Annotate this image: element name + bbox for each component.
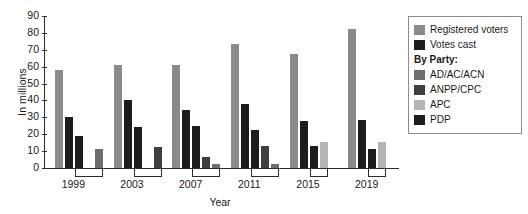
x-tick-label-2015: 2015 [279,178,338,190]
y-tick-mark [42,168,47,169]
legend-item[interactable]: PDP [414,112,517,127]
legend-label: ANPP/CPC [430,84,481,95]
legend-label: Votes cast [430,39,476,50]
legend-swatch-icon [414,40,425,50]
y-tick-label: 20 [17,127,39,139]
legend-label: PDP [430,114,451,125]
legend-item[interactable]: ANPP/CPC [414,82,517,97]
bar [172,65,180,168]
bar [271,164,279,168]
party-bracket [192,169,220,177]
bar [134,127,142,168]
bar [358,120,366,168]
bars-layer [45,16,397,168]
party-bracket [75,169,103,177]
x-tick-label-1999: 1999 [44,178,103,190]
legend-swatch-icon [414,115,425,125]
bar [154,147,162,168]
bar [368,149,376,168]
bar [55,70,63,168]
bar [124,100,132,168]
legend-item[interactable]: AD/AC/ACN [414,67,517,82]
y-tick-label: 0 [17,161,39,173]
legend-heading: By Party: [414,52,517,67]
bar [378,142,386,168]
y-tick-label: 80 [17,26,39,38]
chart-legend: Registered votersVotes castBy Party:AD/A… [408,16,522,134]
party-bracket [134,169,162,177]
bar [320,142,328,168]
y-tick-label: 90 [17,9,39,21]
bar [192,126,200,168]
y-tick-label: 50 [17,77,39,89]
bar [202,157,210,168]
party-bracket [251,169,279,177]
x-axis-title: Year [44,196,396,208]
bar [310,146,318,168]
bar [182,110,190,168]
legend-swatch-icon [414,100,425,110]
bar [241,104,249,169]
bar [348,29,356,168]
bar [300,121,308,168]
x-tick-label-2003: 2003 [103,178,162,190]
party-bracket [310,169,328,177]
legend-label: AD/AC/ACN [430,69,484,80]
legend-label: Registered voters [430,24,508,35]
bar-chart: In millions 0102030405060708090 19992003… [0,0,528,214]
legend-swatch-icon [414,25,425,35]
y-tick: 0 [44,168,49,169]
y-tick-label: 70 [17,43,39,55]
y-tick-label: 40 [17,93,39,105]
legend-item[interactable]: Votes cast [414,37,517,52]
legend-item[interactable]: APC [414,97,517,112]
legend-label: APC [430,99,451,110]
y-tick-label: 10 [17,144,39,156]
x-tick-label-2007: 2007 [161,178,220,190]
bar [290,54,298,168]
legend-swatch-icon [414,85,425,95]
legend-item[interactable]: Registered voters [414,22,517,37]
bar [231,44,239,168]
bar [114,65,122,168]
y-tick-label: 60 [17,60,39,72]
bar [95,149,103,168]
plot-area: 0102030405060708090 19992003200720112015… [44,16,396,179]
x-tick-label-2011: 2011 [220,178,279,190]
party-bracket [368,169,386,177]
bar [261,146,269,168]
bar [65,117,73,168]
legend-swatch-icon [414,70,425,80]
bar [251,130,259,168]
bar [212,164,220,168]
x-tick-label-2019: 2019 [337,178,396,190]
y-tick-label: 30 [17,110,39,122]
bar [75,136,83,168]
